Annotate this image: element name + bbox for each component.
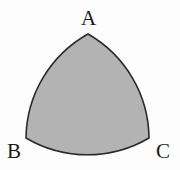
diagram-canvas: A B C	[0, 0, 180, 170]
vertex-label-c: C	[156, 141, 170, 162]
reuleaux-triangle-shape	[26, 34, 149, 155]
vertex-label-a: A	[81, 8, 96, 29]
vertex-label-b: B	[7, 141, 21, 162]
